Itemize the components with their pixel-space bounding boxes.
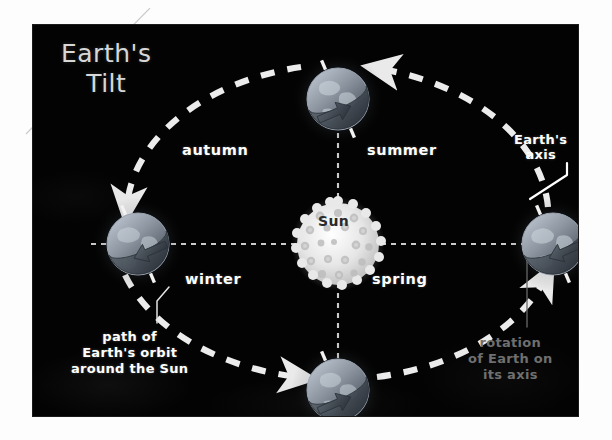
season-label-winter: winter [185,271,241,288]
season-label-autumn: autumn [182,142,248,159]
sun-label: Sun [318,213,349,230]
callout-orbit-path-line-2: Earth's orbit [82,345,177,360]
page-title-line-1: Earth's [61,39,151,68]
earth-globe-right-svg [505,196,578,292]
earth-globe-top-svg [290,51,386,147]
earth-globe-bottom [290,342,386,416]
page-title-line-2: Tilt [86,69,126,98]
earth-globe-left-svg [90,196,186,292]
earth-globe-bottom-svg [290,342,386,416]
callout-rotation-of-earth: rotationof Earth onits axis [468,335,553,383]
callout-orbit-path-line-1: path of [102,329,157,344]
season-label-spring: spring [372,271,427,288]
earth-tilt-diagram: Sun [33,25,578,416]
earth-globe-right [505,196,578,292]
orbit-arc-top-left [127,67,301,205]
callout-rotation-line-3: its axis [483,367,538,382]
earth-globe-left [90,196,186,292]
callout-rotation-line-1: rotation [480,335,542,350]
callout-earths-axis-line-1: Earth's [514,132,567,147]
season-label-summer: summer [367,142,437,159]
page-title: Earth'sTilt [61,39,151,98]
callout-earths-axis-line-2: axis [525,147,556,162]
callout-rotation-line-2: of Earth on [468,351,553,366]
figure-page: Sun [0,0,612,440]
callout-orbit-path-line-3: around the Sun [71,361,188,376]
earth-globe-top [290,51,386,147]
callout-orbit-path: path ofEarth's orbitaround the Sun [71,329,188,377]
callout-earths-axis: Earth'saxis [514,133,567,163]
